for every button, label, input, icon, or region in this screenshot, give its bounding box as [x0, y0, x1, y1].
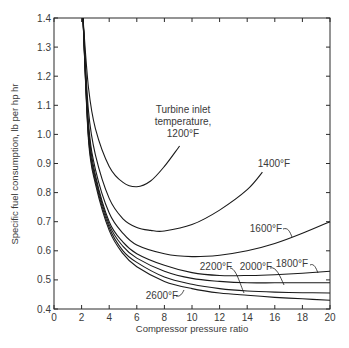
label-1800: 1800°F: [276, 258, 308, 269]
x-axis-title: Compressor pressure ratio: [136, 323, 248, 334]
sfc-chart: 0.40.50.60.70.80.91.01.11.21.31.4 024681…: [0, 0, 349, 348]
label-1400: 1400°F: [258, 158, 290, 169]
x-tick-label: 14: [242, 312, 254, 323]
x-tick-label: 4: [106, 312, 112, 323]
label-2000: 2000°F: [240, 261, 272, 272]
x-tick-label: 16: [269, 312, 281, 323]
x-tick-label: 18: [297, 312, 309, 323]
y-tick-label: 0.9: [37, 158, 51, 169]
y-tick-label: 1.0: [37, 129, 51, 140]
y-tick-label: 1.2: [37, 71, 51, 82]
y-tick-label: 0.8: [37, 187, 51, 198]
y-tick-label: 0.7: [37, 216, 51, 227]
label-1600: 1600°F: [250, 223, 282, 234]
leader-1600: [283, 229, 292, 237]
y-tick-label: 1.4: [37, 13, 51, 24]
x-tick-label: 6: [134, 312, 140, 323]
curve-2200: [83, 18, 330, 293]
y-tick-label: 0.5: [37, 274, 51, 285]
x-tick-label: 10: [186, 312, 198, 323]
curve-1600: [83, 18, 330, 257]
annotation-title-line1: Turbine inlet: [156, 104, 211, 115]
y-tick-label: 0.4: [37, 304, 51, 315]
y-tick-label: 0.6: [37, 245, 51, 256]
x-tick-label: 2: [79, 312, 85, 323]
annotation-title-line2: temperature,: [155, 116, 212, 127]
x-tick-label: 12: [214, 312, 226, 323]
y-tick-label: 1.3: [37, 42, 51, 53]
y-axis-title: Specific fuel consumption, lb per hp hr: [9, 83, 20, 244]
label-1200: 1200°F: [167, 128, 199, 139]
curve-2000: [83, 18, 330, 283]
x-tick-label: 20: [324, 312, 336, 323]
label-2200: 2200°F: [200, 261, 232, 272]
x-tick-label: 0: [51, 312, 57, 323]
label-2600: 2600°F: [146, 290, 178, 301]
y-tick-label: 1.1: [37, 100, 51, 111]
x-tick-label: 8: [162, 312, 168, 323]
